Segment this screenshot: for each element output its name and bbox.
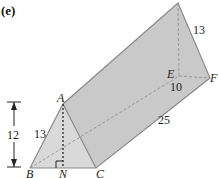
measure-height: 12 bbox=[7, 128, 19, 142]
part-label: (e) bbox=[1, 3, 15, 18]
arrow-down-icon bbox=[11, 159, 17, 167]
measure-AB: 13 bbox=[34, 127, 46, 141]
vertex-label-B: B bbox=[26, 167, 34, 178]
vertex-label-F: F bbox=[209, 71, 218, 85]
measure-DF: 13 bbox=[193, 23, 205, 37]
vertex-label-C: C bbox=[96, 167, 105, 178]
vertex-label-A: A bbox=[56, 91, 65, 105]
prism-diagram: (e) A B C N E F 12 13 13 10 25 bbox=[0, 0, 218, 178]
vertex-label-E: E bbox=[166, 67, 175, 81]
vertex-label-N: N bbox=[58, 167, 68, 178]
measure-EF: 10 bbox=[170, 80, 182, 94]
arrow-up-icon bbox=[11, 102, 17, 110]
measure-length: 25 bbox=[158, 113, 170, 127]
